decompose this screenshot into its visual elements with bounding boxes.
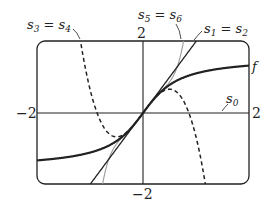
label-s5-s6: s5 = s6 <box>138 7 182 24</box>
label-s1-s2: s1 = s2 <box>204 21 248 38</box>
leader-s5 <box>176 24 181 39</box>
label-s0: s0 <box>226 91 239 108</box>
taylor-approximation-figure: 2 −2 −2 2 f s0 s1 = s2 s3 = s4 s5 = s6 <box>0 0 271 205</box>
plot-svg: 2 −2 −2 2 f s0 s1 = s2 s3 = s4 s5 = s6 <box>0 0 271 205</box>
tick-y-bottom: −2 <box>132 186 153 202</box>
tick-y-top: 2 <box>137 25 146 41</box>
leader-s3 <box>73 29 80 39</box>
leader-s1 <box>194 31 202 40</box>
tick-x-right: 2 <box>252 105 261 121</box>
label-f: f <box>251 59 259 74</box>
tick-x-left: −2 <box>16 105 37 121</box>
label-s3-s4: s3 = s4 <box>27 17 71 34</box>
